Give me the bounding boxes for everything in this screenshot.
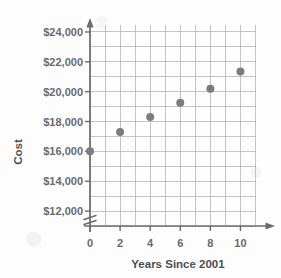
data-point-marker [236, 68, 244, 76]
y-axis-title: Cost [12, 139, 24, 165]
x-tick-label: 10 [234, 237, 246, 249]
y-tick-label: $22,000 [43, 56, 83, 68]
x-tick-label: 2 [117, 237, 123, 249]
y-tick-label: $16,000 [43, 145, 83, 157]
y-tick-label: $12,000 [43, 205, 83, 217]
x-axis-title: Years Since 2001 [131, 258, 225, 270]
y-tick-label: $14,000 [43, 175, 83, 187]
x-tick-label: 4 [147, 237, 154, 249]
data-point-marker [206, 85, 214, 93]
x-tick-label: 0 [87, 237, 93, 249]
y-tick-label: $24,000 [43, 26, 83, 38]
chart-svg: $12,000$14,000$16,000$18,000$20,000$22,0… [0, 0, 281, 278]
data-point-marker [176, 99, 184, 107]
scatter-plot-figure: $12,000$14,000$16,000$18,000$20,000$22,0… [0, 0, 281, 278]
x-tick-label: 6 [177, 237, 183, 249]
data-point-marker [116, 128, 124, 136]
y-tick-label: $18,000 [43, 116, 83, 128]
data-point-marker [86, 147, 94, 155]
data-point-marker [146, 113, 154, 121]
x-tick-label: 8 [207, 237, 213, 249]
y-tick-label: $20,000 [43, 86, 83, 98]
